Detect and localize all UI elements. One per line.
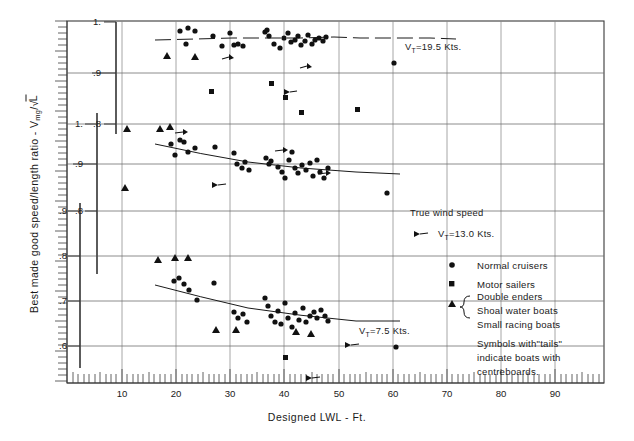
data-point bbox=[186, 287, 191, 292]
plot-area: 1. .9 .8 1. .9 .8 .9 .8 .7 .6 bbox=[0, 0, 634, 441]
data-point bbox=[210, 33, 215, 38]
data-point bbox=[305, 32, 310, 37]
data-point bbox=[171, 278, 176, 283]
data-point bbox=[271, 41, 276, 46]
data-point bbox=[278, 321, 283, 326]
y-tick-label-upper-0: 1. bbox=[93, 16, 101, 27]
data-point bbox=[325, 318, 330, 323]
legend-label-3: Shoal water boats bbox=[477, 305, 558, 316]
data-point bbox=[283, 355, 288, 360]
data-point bbox=[240, 43, 245, 48]
legend-note-0: Symbols with"tails" bbox=[477, 338, 562, 349]
data-point bbox=[194, 297, 199, 302]
legend-label-1: Motor sailers bbox=[477, 279, 535, 290]
y-tick-label-lower-2: .7 bbox=[59, 295, 67, 306]
x-tick-label-8: 90 bbox=[550, 388, 561, 399]
data-point bbox=[295, 33, 300, 38]
legend-marker-circle bbox=[449, 262, 455, 268]
x-tick-label-6: 70 bbox=[442, 388, 453, 399]
x-tick-label-1: 20 bbox=[171, 388, 182, 399]
data-point bbox=[303, 167, 308, 172]
data-point bbox=[391, 60, 396, 65]
legend-label-4: Small racing boats bbox=[477, 319, 560, 330]
legend-note-2: centreboards. bbox=[477, 366, 539, 377]
data-point bbox=[283, 95, 288, 100]
data-point bbox=[185, 25, 190, 30]
data-point bbox=[240, 311, 245, 316]
data-point bbox=[211, 280, 216, 285]
data-point bbox=[384, 190, 389, 195]
data-point bbox=[246, 167, 251, 172]
legend-marker-square bbox=[449, 281, 454, 286]
data-point bbox=[275, 164, 280, 169]
data-point bbox=[282, 300, 287, 305]
data-point bbox=[295, 170, 300, 175]
data-point bbox=[176, 275, 181, 280]
data-point bbox=[322, 313, 327, 318]
data-point bbox=[310, 173, 315, 178]
data-point bbox=[181, 139, 186, 144]
data-point bbox=[181, 281, 186, 286]
data-point bbox=[177, 28, 182, 33]
chart-figure: Best made good speed/length ratio - Vmg/… bbox=[0, 0, 634, 441]
legend-note-1: indicate boats with bbox=[477, 352, 561, 363]
data-point bbox=[192, 28, 197, 33]
data-point bbox=[168, 141, 173, 146]
data-point bbox=[289, 149, 294, 154]
data-point bbox=[263, 155, 268, 160]
data-point bbox=[227, 30, 232, 35]
y-tick-label-upper-2: .8 bbox=[93, 118, 101, 129]
data-point bbox=[285, 315, 290, 320]
data-point bbox=[277, 45, 282, 50]
y-axis-minor-ruler bbox=[55, 21, 67, 383]
data-point bbox=[219, 43, 224, 48]
x-tick-label-5: 60 bbox=[388, 388, 399, 399]
data-point bbox=[269, 81, 274, 86]
y-tick-label-lower-1: .8 bbox=[59, 250, 67, 261]
data-point bbox=[299, 110, 304, 115]
data-point bbox=[275, 308, 280, 313]
data-point bbox=[279, 169, 284, 174]
data-point bbox=[296, 317, 301, 322]
data-point bbox=[264, 27, 269, 32]
data-point bbox=[235, 315, 240, 320]
y-tick-label-lower-0: .9 bbox=[59, 205, 67, 216]
data-point bbox=[282, 175, 287, 180]
data-point bbox=[209, 89, 214, 94]
data-point bbox=[281, 35, 286, 40]
data-point bbox=[289, 324, 294, 329]
data-point bbox=[266, 33, 271, 38]
data-point bbox=[212, 144, 217, 149]
data-point bbox=[307, 160, 312, 165]
data-point bbox=[307, 313, 312, 318]
y-tick-label-lower-3: .6 bbox=[59, 340, 67, 351]
x-tick-label-4: 50 bbox=[334, 388, 345, 399]
legend-label-2: Double enders bbox=[477, 291, 543, 302]
y-tick-label-middle-0: 1. bbox=[75, 118, 83, 129]
x-tick-label-7: 80 bbox=[496, 388, 507, 399]
data-point bbox=[172, 152, 177, 157]
data-point bbox=[292, 310, 297, 315]
data-point bbox=[268, 313, 273, 318]
data-point bbox=[262, 295, 267, 300]
data-point bbox=[235, 41, 240, 46]
data-point bbox=[285, 30, 290, 35]
data-point bbox=[323, 34, 328, 39]
data-point bbox=[321, 175, 326, 180]
data-point bbox=[393, 344, 398, 349]
y-tick-label-middle-1: .9 bbox=[75, 158, 83, 169]
y-tick-label-middle-2: .8 bbox=[75, 205, 83, 216]
series-motor-sailers-lower bbox=[283, 355, 288, 360]
data-point bbox=[292, 165, 297, 170]
data-point bbox=[286, 157, 291, 162]
legend-label-0: Normal cruisers bbox=[477, 260, 548, 271]
y-tick-label-upper-1: .9 bbox=[93, 67, 101, 78]
x-tick-label-0: 10 bbox=[117, 388, 128, 399]
data-point bbox=[234, 161, 239, 166]
data-point bbox=[265, 303, 270, 308]
data-point bbox=[242, 159, 247, 164]
data-point bbox=[300, 305, 305, 310]
data-point bbox=[268, 158, 273, 163]
data-point bbox=[311, 309, 316, 314]
wind-value-middle: =13.0 Kts. bbox=[449, 228, 494, 239]
